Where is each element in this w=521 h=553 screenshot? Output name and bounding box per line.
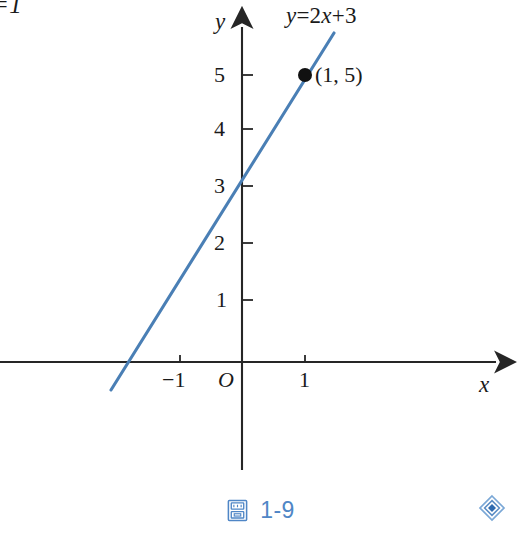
book-figure-icon [226, 499, 249, 522]
figure-caption: 1-9 [0, 487, 521, 533]
figure-caption-text: 1-9 [260, 497, 295, 524]
equation-annotation: y=2x+3 [286, 4, 357, 27]
y-tick-label-2: 2 [214, 232, 225, 254]
x-axis-label: x [479, 373, 489, 396]
equation-variable: x [321, 3, 331, 28]
y-tick-label-3: 3 [214, 175, 225, 197]
coordinate-plane [0, 0, 521, 490]
equation-plus: + [332, 3, 345, 28]
y-tick-label-5: 5 [214, 64, 225, 86]
y-axis-label: y [215, 10, 225, 33]
y-tick-label-4: 4 [214, 118, 225, 140]
diamond-bullet-icon [478, 494, 506, 522]
equation-lhs: y [286, 3, 296, 28]
x-tick-label-1: 1 [299, 369, 310, 391]
x-tick-label-neg1: −1 [162, 369, 185, 391]
y-tick-label-1: 1 [216, 289, 227, 311]
figure-1-9: =1 y x 5 4 3 2 1 [0, 0, 521, 553]
equation-equals: = [296, 3, 309, 28]
equation-constant: 3 [345, 3, 357, 28]
data-point-1-5 [298, 68, 312, 82]
equation-coefficient: 2 [310, 3, 322, 28]
point-coordinate-label: (1, 5) [315, 64, 363, 86]
origin-label: O [218, 369, 234, 391]
